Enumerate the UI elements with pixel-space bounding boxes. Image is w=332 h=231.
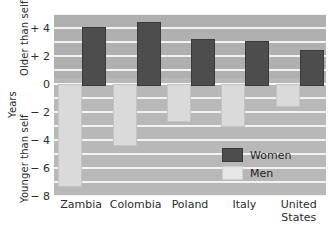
x-tick-label: Italy bbox=[217, 198, 271, 211]
bar-women-colombia bbox=[137, 22, 161, 86]
legend-label: Women bbox=[250, 149, 291, 162]
y-tick-label: − 2 bbox=[2, 106, 50, 119]
bar-men-united-states bbox=[276, 84, 300, 107]
legend-swatch-men bbox=[222, 166, 243, 180]
y-tick-label: − 6 bbox=[2, 162, 50, 175]
legend-item: Men bbox=[222, 164, 291, 182]
x-tick-label: Zambia bbox=[54, 198, 108, 211]
gridline bbox=[54, 195, 326, 196]
y-tick-label: 0 bbox=[2, 78, 50, 91]
bar-men-italy bbox=[221, 84, 245, 127]
x-tick-label: UnitedStates bbox=[272, 198, 326, 224]
bar-women-poland bbox=[191, 39, 215, 86]
bar-men-colombia bbox=[113, 84, 137, 146]
legend-label: Men bbox=[250, 167, 273, 180]
y-tick-label: − 4 bbox=[2, 134, 50, 147]
legend-item: Women bbox=[222, 146, 291, 164]
gridline bbox=[54, 125, 326, 127]
x-axis-tick-labels: ZambiaColombiaPolandItalyUnitedStates bbox=[54, 198, 326, 231]
y-axis-tick-labels: + 4+ 20− 2− 4− 6− 8 bbox=[0, 14, 50, 196]
bar-women-italy bbox=[245, 41, 269, 86]
x-tick-label: Poland bbox=[163, 198, 217, 211]
bar-women-zambia bbox=[82, 27, 106, 86]
legend: WomenMen bbox=[222, 146, 291, 182]
gridline bbox=[54, 14, 326, 15]
bar-women-united-states bbox=[300, 50, 324, 86]
bar-men-poland bbox=[167, 84, 191, 122]
legend-swatch-women bbox=[222, 148, 243, 162]
y-tick-label: + 2 bbox=[2, 50, 50, 63]
gridline bbox=[54, 139, 326, 141]
bar-chart: Older than self Years Younger than self … bbox=[0, 0, 332, 231]
x-tick-label: Colombia bbox=[108, 198, 162, 211]
y-tick-label: − 8 bbox=[2, 190, 50, 203]
y-tick-label: + 4 bbox=[2, 22, 50, 35]
bar-men-zambia bbox=[58, 84, 82, 187]
